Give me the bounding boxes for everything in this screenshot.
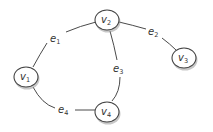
graph-diagram: e1 e2 e3 e4 v1 v2 v3 v4 [0,0,213,132]
edge-label-e3: e3 [113,63,123,76]
edge-label-e4: e4 [58,104,68,117]
edge-e2: e2 [119,22,176,50]
edge-e3: e3 [110,31,123,101]
edge-e1: e1 [33,22,96,67]
node-v3: v3 [172,48,198,71]
edge-label-e1: e1 [50,33,60,46]
node-v4: v4 [95,102,121,125]
node-v1: v1 [14,67,40,90]
edge-label-e2: e2 [148,26,158,39]
node-v2: v2 [95,10,121,33]
edge-e4: e4 [33,87,95,117]
